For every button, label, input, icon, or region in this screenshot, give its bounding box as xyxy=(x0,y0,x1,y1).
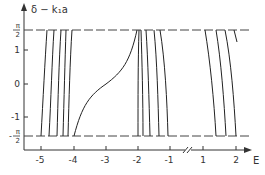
phase-curves xyxy=(41,30,237,136)
svg-text:2: 2 xyxy=(233,155,239,165)
svg-text:π: π xyxy=(16,128,21,136)
svg-text:1: 1 xyxy=(200,155,206,165)
svg-text:1: 1 xyxy=(14,45,20,55)
x-ticks xyxy=(41,146,236,150)
svg-text:-1: -1 xyxy=(165,155,174,165)
x-axis-arrow-icon xyxy=(244,147,252,153)
svg-text:π: π xyxy=(16,22,21,30)
x-axis-label: E xyxy=(253,155,259,166)
svg-text:-1: -1 xyxy=(11,112,20,122)
y-axis-arrow-icon xyxy=(21,3,27,11)
svg-text:-3: -3 xyxy=(101,155,110,165)
svg-text:-4: -4 xyxy=(69,155,78,165)
y-ticks xyxy=(24,50,28,117)
y-tick-labels: π 2 1 0 -1 - π 2 xyxy=(9,22,21,145)
svg-text:-: - xyxy=(9,132,12,141)
y-axis-label: δ − k₁a xyxy=(31,4,68,15)
svg-text:2: 2 xyxy=(16,31,20,39)
svg-text:0: 0 xyxy=(14,79,20,89)
phase-shift-chart: δ − k₁a E -5 -4 -3 -2 -1 1 2 π 2 1 0 xyxy=(0,0,265,175)
svg-text:2: 2 xyxy=(16,137,20,145)
svg-text:-5: -5 xyxy=(36,155,45,165)
x-tick-labels: -5 -4 -3 -2 -1 1 2 xyxy=(36,155,239,165)
svg-text:-2: -2 xyxy=(133,155,142,165)
